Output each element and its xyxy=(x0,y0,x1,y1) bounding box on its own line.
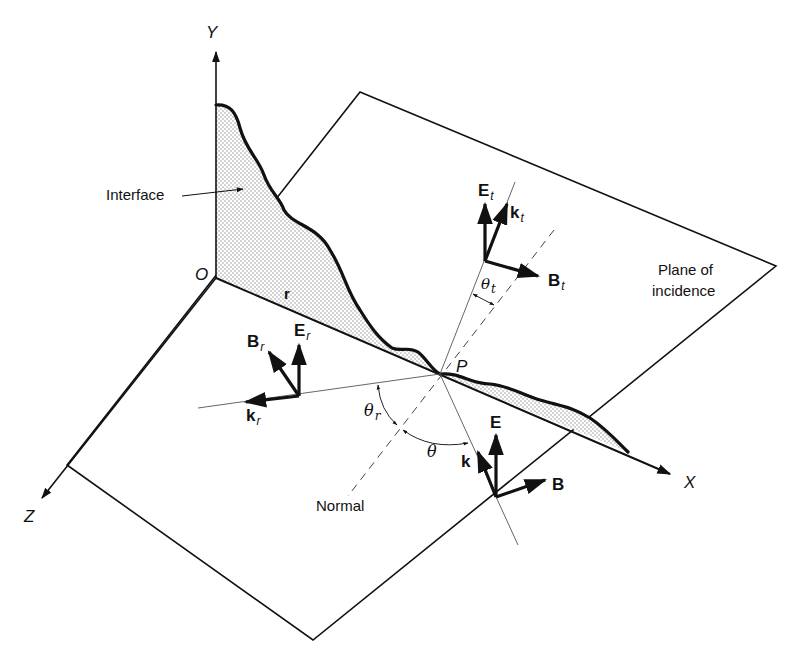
z-axis-label: Z xyxy=(24,508,34,525)
reflected-ray-line xyxy=(198,374,440,408)
x-axis-label: X xyxy=(684,474,695,491)
incident-b-label: B xyxy=(552,476,564,493)
normal-label: Normal xyxy=(316,498,364,513)
theta-t-label: θt xyxy=(481,277,496,295)
bt-arrow xyxy=(485,261,538,276)
z-axis xyxy=(42,278,216,498)
incident-k-label: k xyxy=(461,453,470,470)
plane-label-line2: incidence xyxy=(652,283,715,298)
reflected-vectors xyxy=(246,345,299,402)
transmitted-b-label: Bt xyxy=(548,272,565,292)
normal-line xyxy=(348,230,554,496)
theta-r-label: θr xyxy=(364,403,380,422)
reflected-b-label: Br xyxy=(247,333,264,353)
reflected-e-label: Er xyxy=(294,322,310,342)
position-vector-label: r xyxy=(284,286,290,301)
coordinate-axes xyxy=(42,52,670,498)
y-axis-label: Y xyxy=(206,24,217,41)
plane-label-line1: Plane of xyxy=(658,262,713,277)
kt-arrow xyxy=(485,204,507,261)
transmitted-e-label: Et xyxy=(478,182,494,202)
incident-e-label: E xyxy=(490,414,501,431)
kr-arrow xyxy=(246,396,299,402)
interface-label: Interface xyxy=(106,187,164,202)
transmitted-k-label: kt xyxy=(510,204,524,224)
theta-r-arc xyxy=(378,385,397,425)
k-arrow xyxy=(478,452,496,497)
theta-label: θ xyxy=(427,444,437,460)
b-arrow xyxy=(496,480,545,497)
reflection-refraction-diagram xyxy=(0,0,804,660)
reflected-k-label: kr xyxy=(246,407,260,427)
br-arrow xyxy=(269,352,299,396)
incident-vectors xyxy=(478,435,545,497)
origin-label: O xyxy=(195,266,208,283)
point-p-label: P xyxy=(456,358,467,375)
